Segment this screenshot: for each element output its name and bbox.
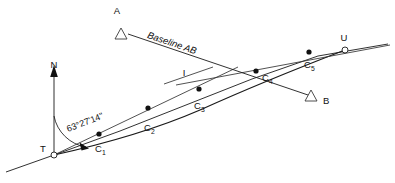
station-triangle-b-icon — [305, 90, 317, 101]
survey-diagram-canvas: A B U T N I Baseline AB 63°27'14" C1 C2 … — [0, 0, 395, 183]
back-tangent-line — [54, 67, 238, 155]
label-station-c3: C3 — [194, 100, 205, 113]
survey-diagram-svg: A B U T N I Baseline AB 63°27'14" C1 C2 … — [0, 0, 395, 183]
label-bearing-angle: 63°27'14" — [65, 111, 105, 134]
label-control-b: B — [323, 95, 329, 106]
station-dot-c5 — [306, 49, 311, 54]
label-station-c5: C5 — [304, 59, 315, 72]
station-dot-c4 — [253, 68, 258, 73]
station-dot-c3 — [196, 86, 201, 91]
station-marker-t — [51, 152, 57, 158]
forward-tangent-line — [176, 45, 390, 85]
label-station-u: U — [341, 32, 348, 43]
label-intersection-point: I — [183, 67, 186, 78]
station-dot-c2 — [145, 105, 150, 110]
label-station-c4: C4 — [262, 72, 273, 85]
label-north: N — [51, 59, 58, 70]
station-marker-u — [342, 47, 348, 53]
station-dot-c1 — [96, 131, 101, 136]
label-station-c2: C2 — [144, 122, 155, 135]
label-control-a: A — [114, 5, 121, 16]
intersection-tick-line — [164, 67, 213, 84]
label-station-c1: C1 — [95, 143, 106, 156]
label-station-t: T — [40, 143, 46, 154]
station-triangle-a-icon — [115, 28, 127, 39]
baseline-ab-line — [128, 34, 308, 95]
